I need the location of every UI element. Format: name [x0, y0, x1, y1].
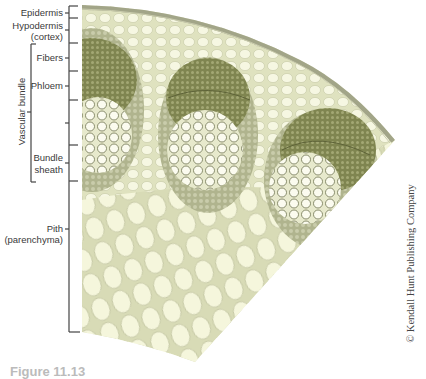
- label-epidermis: Epidermis: [21, 7, 63, 18]
- label-vascular-bundle: Vascular bundle: [16, 72, 27, 152]
- label-sheath: sheath: [34, 164, 63, 175]
- vascular-bundle-2: [158, 57, 258, 213]
- label-bundle: Bundle: [33, 152, 63, 163]
- label-phloem: Phloem: [31, 80, 63, 91]
- label-fibers: Fibers: [37, 52, 63, 63]
- label-hypodermis-sub: (cortex): [31, 31, 63, 42]
- figure-caption: Figure 11.13: [10, 364, 85, 379]
- label-hypodermis: Hypodermis: [12, 20, 63, 31]
- copyright-credit: © Kendall Hunt Publishing Company: [405, 172, 416, 356]
- label-pith-sub: (parenchyma): [4, 234, 63, 245]
- tissue-wedge: [40, 0, 410, 376]
- label-pith: Pith: [47, 223, 63, 234]
